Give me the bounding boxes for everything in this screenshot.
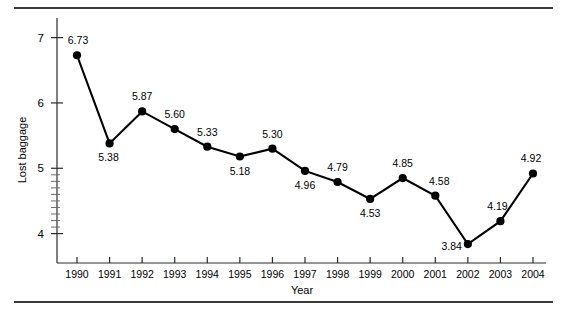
data-point-markers — [73, 51, 537, 248]
y-axis-tick-labels: 4567 — [38, 32, 45, 240]
data-point-marker — [431, 192, 439, 200]
data-point-marker — [333, 178, 341, 186]
x-axis-ticks — [77, 257, 533, 263]
data-point-marker — [203, 143, 211, 151]
data-point-value-label: 4.96 — [295, 179, 316, 191]
x-axis-tick-label: 1996 — [261, 268, 285, 280]
x-axis-tick-label: 2003 — [489, 268, 513, 280]
data-point-value-label: 5.18 — [230, 165, 251, 177]
data-point-marker — [73, 51, 81, 59]
y-axis-tick-label: 5 — [38, 162, 44, 174]
x-axis-tick-label: 1990 — [65, 268, 89, 280]
x-axis-tick-label: 2000 — [391, 268, 415, 280]
data-point-value-labels: 6.735.385.875.605.335.185.304.964.794.53… — [68, 34, 542, 252]
x-axis-tick-label: 1995 — [228, 268, 252, 280]
data-point-marker — [399, 174, 407, 182]
line-chart: 4567 19901991199219931994199519961997199… — [0, 0, 567, 311]
x-axis-tick-label: 2001 — [424, 268, 448, 280]
data-series-line — [77, 55, 533, 244]
data-point-value-label: 6.73 — [68, 34, 89, 46]
data-point-marker — [105, 139, 113, 147]
data-point-marker — [301, 167, 309, 175]
x-axis-tick-label: 1998 — [326, 268, 350, 280]
x-axis-tick-label: 1993 — [163, 268, 187, 280]
data-point-marker — [464, 240, 472, 248]
y-axis-tick-label: 4 — [38, 228, 45, 240]
x-axis-tick-label: 1999 — [358, 268, 382, 280]
chart-axes — [57, 18, 546, 263]
data-point-value-label: 5.33 — [197, 126, 218, 138]
x-axis-tick-label: 1994 — [196, 268, 220, 280]
data-point-value-label: 4.79 — [327, 161, 348, 173]
data-point-marker — [529, 169, 537, 177]
y-axis-title: Lost baggage — [16, 117, 28, 184]
data-point-value-label: 4.53 — [360, 207, 381, 219]
x-axis-tick-label: 2004 — [521, 268, 545, 280]
data-point-marker — [171, 125, 179, 133]
data-point-marker — [138, 107, 146, 115]
x-axis-tick-label: 2002 — [456, 268, 480, 280]
y-axis-tick-label: 6 — [38, 97, 44, 109]
x-axis-tick-label: 1992 — [130, 268, 154, 280]
data-point-marker — [268, 145, 276, 153]
data-point-value-label: 5.38 — [98, 151, 119, 163]
data-point-value-label: 5.30 — [262, 128, 283, 140]
x-axis-tick-label: 1997 — [293, 268, 317, 280]
x-axis-tick-labels: 1990199119921993199419951996199719981999… — [65, 268, 545, 280]
data-point-value-label: 4.92 — [521, 152, 542, 164]
x-axis-title: Year — [291, 284, 314, 296]
data-point-value-label: 4.19 — [487, 200, 508, 212]
data-point-value-label: 5.87 — [132, 90, 153, 102]
x-axis-tick-label: 1991 — [98, 268, 122, 280]
y-axis-minor-ticks — [51, 175, 60, 227]
data-point-value-label: 5.60 — [164, 108, 185, 120]
data-point-value-label: 3.84 — [441, 240, 462, 252]
y-axis-tick-label: 7 — [38, 32, 44, 44]
data-point-marker — [496, 217, 504, 225]
data-point-value-label: 4.85 — [392, 157, 413, 169]
data-point-marker — [366, 195, 374, 203]
data-point-value-label: 4.58 — [429, 175, 450, 187]
data-point-marker — [236, 152, 244, 160]
